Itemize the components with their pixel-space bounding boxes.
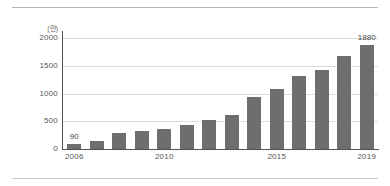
x-axis-tick-label: 2006 [54, 153, 94, 161]
gridline [63, 121, 378, 122]
gridline [63, 94, 378, 95]
bar [202, 120, 216, 149]
x-axis-tick-label: 2010 [144, 153, 184, 161]
bar [112, 133, 126, 149]
y-axis-tick-label: 1000 [18, 90, 58, 98]
bar [135, 131, 149, 149]
y-axis-unit-label: (만) [47, 25, 58, 32]
bar [225, 115, 239, 149]
bar [315, 70, 329, 149]
y-axis-tick-label: 1500 [18, 62, 58, 70]
bar-value-label: 1880 [347, 34, 387, 42]
bar-value-label: 90 [54, 133, 94, 141]
top-divider-rule [12, 7, 378, 8]
bar [90, 141, 104, 149]
bar [247, 97, 261, 149]
gridline [63, 38, 378, 39]
bar [157, 129, 171, 149]
y-axis-tick-labels: (만) 0500100015002000 [14, 0, 58, 186]
x-axis-tick-label: 2015 [257, 153, 297, 161]
bar [360, 45, 374, 149]
y-axis-tick-label: 2000 [18, 34, 58, 42]
y-axis-tick-label: 0 [18, 145, 58, 153]
bottom-divider-rule [12, 178, 378, 179]
chart-figure: (만) 0500100015002000 9020062010201518802… [0, 0, 390, 186]
y-axis-tick-label: 500 [18, 117, 58, 125]
x-axis-line [63, 149, 379, 150]
gridline [63, 66, 378, 67]
x-axis-tick-label: 2019 [347, 153, 387, 161]
bar [180, 125, 194, 149]
bar [292, 76, 306, 149]
bar [67, 144, 81, 149]
bar [337, 56, 351, 149]
plot-area [63, 38, 378, 149]
bar [270, 89, 284, 149]
